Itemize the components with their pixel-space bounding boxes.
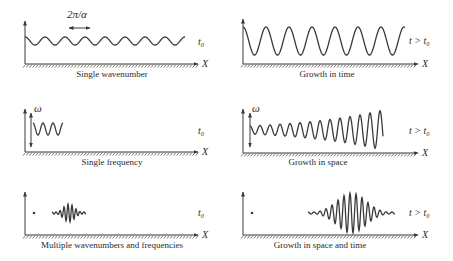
x-axis-label: X <box>421 229 429 240</box>
caption: Growth in space <box>289 157 348 167</box>
omega-label: ω <box>252 102 260 114</box>
time-label: t₀ <box>198 207 205 218</box>
wave-instability-diagram: 2π/α t₀ X Single wavenumber t > t₀ X Gro… <box>0 0 453 261</box>
ground-hatch <box>23 153 198 156</box>
single-frequency-wave <box>33 123 63 135</box>
panel-growth-in-space: ω t > t₀ X Growth in space <box>241 102 430 167</box>
x-axis-label: X <box>421 58 429 69</box>
x-axis-label: X <box>201 58 209 69</box>
time-label: t > t₀ <box>409 35 430 46</box>
ground-hatch <box>241 236 416 239</box>
growth-in-time-wave <box>243 27 405 55</box>
wavelength-label: 2π/α <box>67 8 87 20</box>
panel-single-frequency: ω t₀ X Single frequency <box>23 102 209 167</box>
time-label: t₀ <box>198 125 205 136</box>
x-axis-label: X <box>201 229 209 240</box>
panel-single-wavenumber: 2π/α t₀ X Single wavenumber <box>23 8 209 79</box>
time-label: t > t₀ <box>409 207 430 218</box>
caption: Growth in time <box>300 69 355 79</box>
caption: Growth in space and time <box>274 240 366 250</box>
time-label: t₀ <box>198 36 205 47</box>
panel-multiple-wavenumbers: t₀ X Multiple wavenumbers and frequencie… <box>23 192 209 250</box>
source-point-icon <box>251 212 254 215</box>
ground-hatch <box>241 65 416 68</box>
caption: Single frequency <box>81 157 143 167</box>
caption: Single wavenumber <box>76 69 148 79</box>
wavepacket <box>52 204 86 222</box>
x-axis-label: X <box>421 147 429 158</box>
panel-growth-in-space-and-time: t > t₀ X Growth in space and time <box>241 192 430 250</box>
ground-hatch <box>23 236 198 239</box>
panel-growth-in-time: t > t₀ X Growth in time <box>241 19 430 79</box>
growth-in-space-wave <box>250 111 383 148</box>
single-wavenumber-wave <box>25 37 185 45</box>
growing-wavepacket <box>308 193 395 233</box>
x-axis-label: X <box>201 146 209 157</box>
source-point-icon <box>33 212 36 215</box>
ground-hatch <box>23 65 198 68</box>
omega-label: ω <box>34 102 42 114</box>
caption: Multiple wavenumbers and frequencies <box>41 240 184 250</box>
time-label: t > t₀ <box>409 125 430 136</box>
